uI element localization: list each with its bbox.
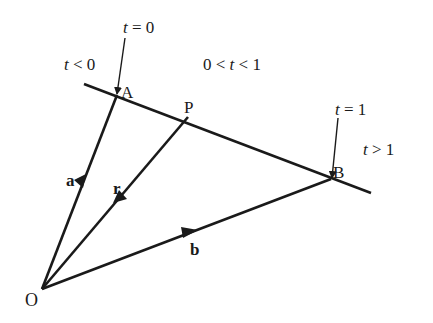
vector-a-line (42, 95, 117, 289)
vector-line-diagram: A P B O a r b t = 0 t = 1 t < 0 0 < t < … (0, 0, 433, 323)
marker-t-eq-0: t = 0 (123, 18, 154, 37)
point-label-B: B (333, 163, 344, 182)
vector-label-b: b (190, 240, 199, 259)
region-t-lt-0: t < 0 (64, 55, 95, 74)
point-label-O: O (25, 290, 38, 310)
point-label-P: P (184, 98, 193, 117)
marker-t-eq-1: t = 1 (335, 100, 366, 119)
region-0-lt-t-lt-1: 0 < t < 1 (203, 55, 261, 74)
vector-r-line (42, 117, 188, 289)
vector-a-arrowhead-icon (74, 174, 86, 188)
vector-label-r: r (113, 179, 121, 198)
vector-b-arrowhead-icon (181, 227, 198, 238)
region-t-gt-1: t > 1 (363, 140, 394, 159)
point-label-A: A (121, 83, 134, 102)
vector-label-a: a (66, 171, 75, 190)
